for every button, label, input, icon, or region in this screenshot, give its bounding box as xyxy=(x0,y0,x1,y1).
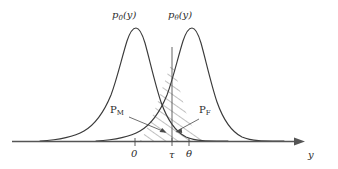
shaded-region-pf xyxy=(172,62,212,141)
plot-canvas xyxy=(0,0,338,169)
shaded-region-pm xyxy=(140,62,172,141)
label-density-alt: pθ(y) xyxy=(168,10,192,22)
tick-label-tau: τ xyxy=(169,150,175,160)
label-prob-false-alarm-subscript: F xyxy=(206,109,211,117)
axis-label-y: y xyxy=(308,150,314,160)
label-prob-false-alarm-base: P xyxy=(199,104,206,115)
label-prob-false-alarm: PF xyxy=(199,105,211,117)
label-prob-miss: PM xyxy=(110,105,124,117)
label-prob-miss-base: P xyxy=(110,104,117,115)
label-density-null-arg: (y) xyxy=(123,9,136,20)
curve-density-null xyxy=(40,28,228,141)
label-density-alt-arg: (y) xyxy=(179,9,192,20)
tick-label-0: 0 xyxy=(131,149,137,159)
x-axis-arrowhead xyxy=(294,138,305,146)
label-density-null: p0(y) xyxy=(112,10,136,22)
tick-label-theta: θ xyxy=(186,149,192,159)
label-prob-miss-subscript: M xyxy=(117,109,124,117)
signal-detection-figure: p0(y) pθ(y) PM PF 0 τ θ y xyxy=(0,0,338,169)
